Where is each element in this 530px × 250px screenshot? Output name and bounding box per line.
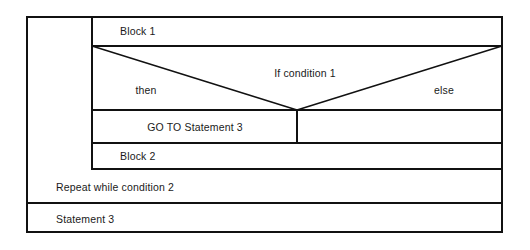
- else-branch-label: else: [434, 84, 454, 96]
- then-branch-label: then: [135, 84, 156, 96]
- goto-statement-label: GO TO Statement 3: [147, 121, 243, 133]
- statement3-label: Statement 3: [56, 213, 114, 225]
- repeat-while-label: Repeat while condition 2: [56, 181, 174, 193]
- block2-label: Block 2: [120, 150, 155, 162]
- block1-label: Block 1: [120, 25, 155, 37]
- structogram-canvas: Block 1 If condition 1 then else GO TO S…: [0, 0, 530, 250]
- outer-border: [27, 17, 502, 232]
- condition-label: If condition 1: [274, 67, 336, 79]
